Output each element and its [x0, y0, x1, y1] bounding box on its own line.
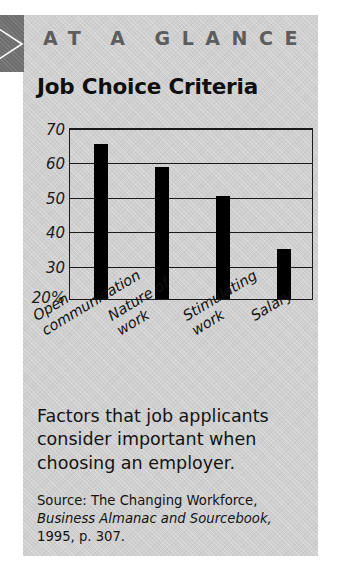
right-arrow-icon [0, 15, 24, 72]
y-tick-label-50: 50 [46, 189, 65, 207]
x-axis-labels: Opencommunication Nature ofwork Stimulat… [0, 304, 348, 396]
source-line-2: Business Almanac and Sourcebook, [37, 511, 272, 526]
caption-text: Factors that job applicants consider imp… [37, 405, 299, 475]
gridline-70: 70 [70, 129, 312, 130]
y-tick-label-30: 30 [46, 258, 65, 276]
y-tick-label-40: 40 [46, 224, 65, 242]
kicker-at-a-glance: AT A GLANCE [43, 27, 309, 49]
source-citation: Source: The Changing Workforce, Business… [37, 492, 305, 547]
y-tick-label-70: 70 [46, 121, 65, 139]
page-title: Job Choice Criteria [37, 74, 258, 99]
at-a-glance-infographic: AT A GLANCE Job Choice Criteria 70 60 50… [0, 0, 348, 577]
source-line-1: Source: The Changing Workforce, [37, 493, 257, 508]
source-line-3: 1995, p. 307. [37, 529, 125, 544]
y-tick-label-60: 60 [46, 155, 65, 173]
